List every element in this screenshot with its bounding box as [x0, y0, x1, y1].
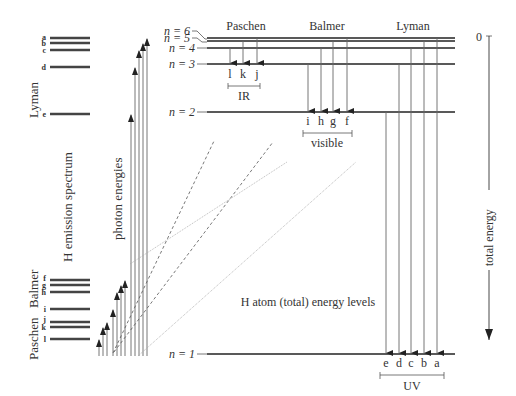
photon-energies-title: photon energies — [110, 158, 125, 240]
level-labels: n = 6 n = 5 n = 4 n = 3 n = 2 n = 1 — [164, 24, 195, 361]
lyman-transitions — [386, 38, 437, 353]
energy-level-diagram: a b c d e f g h i j k l Lyman Balmer Pas… — [0, 0, 516, 396]
zero-energy-label: 0 — [476, 30, 482, 44]
transition-label-j: j — [254, 67, 258, 81]
transition-label-l: l — [228, 67, 232, 81]
spectrum-label-e: e — [42, 110, 46, 119]
level-label-n2: n = 2 — [169, 105, 195, 119]
transition-label-h: h — [318, 114, 324, 128]
transition-label-f: f — [345, 114, 349, 128]
balmer-series-label: Balmer — [26, 269, 41, 308]
spectrum-label-d: d — [42, 63, 47, 72]
total-energy-label: total energy — [482, 209, 496, 266]
spectrum-label-i: i — [44, 305, 47, 314]
transition-label-d: d — [396, 356, 402, 370]
transition-label-b: b — [421, 356, 427, 370]
uv-bracket — [380, 372, 444, 379]
dashed-line-balmer-upper — [113, 141, 214, 353]
emission-spectrum: a b c d e f g h i j k l Lyman Balmer Pas… — [26, 33, 90, 360]
spectrum-label-l: l — [44, 335, 47, 344]
spectrum-label-c: c — [42, 46, 46, 55]
visible-band-label: visible — [311, 136, 343, 150]
spectrum-line-labels: a b c d e f g h i j k l — [42, 33, 47, 344]
transition-label-a: a — [434, 356, 440, 370]
level-label-n3: n = 3 — [169, 57, 195, 71]
mapping-lines — [113, 141, 356, 356]
transition-label-k: k — [240, 67, 246, 81]
spectrum-label-h: h — [42, 288, 47, 297]
paschen-series-title: Paschen — [226, 19, 265, 33]
lyman-transition-labels: e d c b a — [383, 356, 440, 370]
balmer-transitions — [308, 38, 347, 111]
emission-spectrum-title: H emission spectrum — [60, 152, 75, 262]
dotted-line-uv-lower — [138, 162, 356, 356]
paschen-series-label: Paschen — [26, 317, 41, 360]
transition-label-i: i — [306, 114, 310, 128]
transition-label-g: g — [330, 114, 336, 128]
paschen-transition-labels: l k j — [228, 67, 258, 81]
lyman-series-title: Lyman — [396, 19, 429, 33]
spectrum-label-k: k — [42, 323, 47, 332]
transition-label-e: e — [383, 356, 388, 370]
level-label-n1: n = 1 — [169, 347, 195, 361]
ir-band-label: IR — [238, 89, 250, 103]
lyman-series-label: Lyman — [26, 81, 41, 118]
uv-band-label: UV — [403, 379, 421, 393]
transition-label-c: c — [408, 356, 413, 370]
balmer-transition-labels: i h g f — [306, 114, 349, 128]
energy-levels-title: H atom (total) energy levels — [241, 295, 376, 309]
dotted-line-uv-upper — [130, 162, 287, 264]
dashed-line-visible-right — [114, 142, 273, 352]
balmer-series-title: Balmer — [309, 19, 344, 33]
level-label-n4: n = 4 — [169, 41, 195, 55]
total-energy-axis: 0 total energy — [476, 30, 496, 340]
